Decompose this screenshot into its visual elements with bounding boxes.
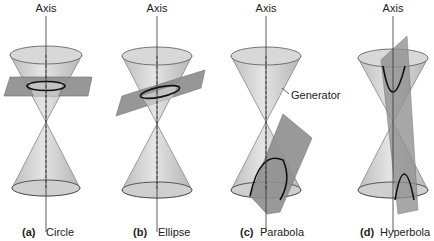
panel-letter-a: (a) <box>22 226 36 238</box>
panel-parabola: Generator Axis (c) Parabola <box>231 2 341 238</box>
panel-circle: Axis (a) Circle <box>4 2 92 238</box>
panel-name-a: Circle <box>46 226 74 238</box>
panel-name-d: Hyperbola <box>380 226 431 238</box>
panel-hyperbola: Axis (d) Hyperbola <box>358 2 431 238</box>
axis-label-c: Axis <box>256 2 277 14</box>
panel-letter-b: (b) <box>133 226 147 238</box>
panel-letter-d: (d) <box>360 226 374 238</box>
axis-label-b: Axis <box>147 2 168 14</box>
panel-name-c: Parabola <box>260 226 305 238</box>
axis-label-a: Axis <box>36 2 57 14</box>
panel-name-b: Ellipse <box>158 226 190 238</box>
generator-label: Generator <box>291 89 341 101</box>
conic-sections-figure: Axis (a) Circle Axis (b) Ellipse Generat… <box>0 0 434 241</box>
panel-letter-c: (c) <box>240 226 254 238</box>
axis-label-d: Axis <box>383 2 404 14</box>
panel-ellipse: Axis (b) Ellipse <box>116 2 205 238</box>
